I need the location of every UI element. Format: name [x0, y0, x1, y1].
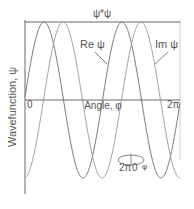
x-tick-zero: 0	[27, 99, 33, 110]
wavefunction-chart: ψ*ψ Re ψ Im ψ 0 2π Angle, φ Wavefunction…	[0, 0, 194, 209]
im-psi-label: Im ψ	[155, 38, 178, 50]
inset-zero-label: 0	[132, 162, 138, 173]
x-axis-title: Angle, φ	[84, 100, 122, 111]
psi-star-psi-label: ψ*ψ	[93, 8, 111, 19]
inset-two-pi-label: 2π	[119, 162, 132, 173]
ring-inset-icon: 2π 0 φ	[118, 154, 147, 173]
re-psi-leader	[95, 52, 107, 64]
im-psi-leader	[155, 52, 168, 64]
x-tick-two-pi: 2π	[167, 99, 180, 110]
inset-phi-label: φ	[142, 162, 147, 171]
y-axis-title: Wavefunction, ψ	[6, 67, 18, 147]
re-psi-label: Re ψ	[80, 38, 105, 50]
